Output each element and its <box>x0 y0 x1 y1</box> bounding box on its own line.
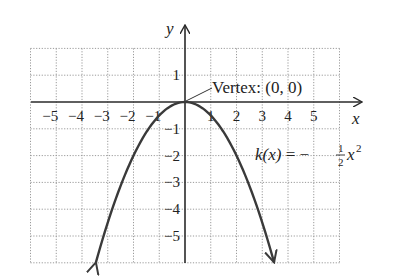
y-tick-label: −2 <box>164 148 180 164</box>
y-tick-label: −4 <box>164 201 180 217</box>
x-tick-label: −3 <box>94 108 110 124</box>
x-tick-label: 3 <box>259 108 267 124</box>
x-axis-label: x <box>351 109 360 128</box>
x-tick-label: 4 <box>284 108 292 124</box>
formula-denominator: 2 <box>338 156 344 168</box>
vertex-leader-line <box>186 88 212 101</box>
x-tick-label: 2 <box>233 108 241 124</box>
y-axis-label: y <box>164 19 174 38</box>
x-tick-label: 5 <box>310 108 318 124</box>
y-tick-label: −5 <box>164 228 180 244</box>
function-formula: k(x) = − 1 2 x 2 <box>255 142 362 168</box>
formula-exponent: 2 <box>356 142 362 154</box>
formula-lhs: k(x) <box>255 145 282 164</box>
x-tick-label: −2 <box>120 108 136 124</box>
parabola-plot: x y −5−4−3−2−112345 1−1−2−3−4−5 Vertex: … <box>0 0 394 277</box>
x-tick-label: −5 <box>42 108 58 124</box>
svg-text:k(x) = −: k(x) = − <box>255 145 309 164</box>
formula-variable: x <box>346 145 355 164</box>
vertex-annotation: Vertex: (0, 0) <box>212 78 302 97</box>
x-tick-label: −4 <box>68 108 84 124</box>
y-tick-label: −1 <box>164 121 180 137</box>
formula-equals: = − <box>281 145 309 164</box>
y-tick-labels: 1−1−2−3−4−5 <box>164 67 180 244</box>
y-tick-label: −3 <box>164 174 180 190</box>
formula-numerator: 1 <box>338 142 344 154</box>
y-tick-label: 1 <box>173 67 181 83</box>
